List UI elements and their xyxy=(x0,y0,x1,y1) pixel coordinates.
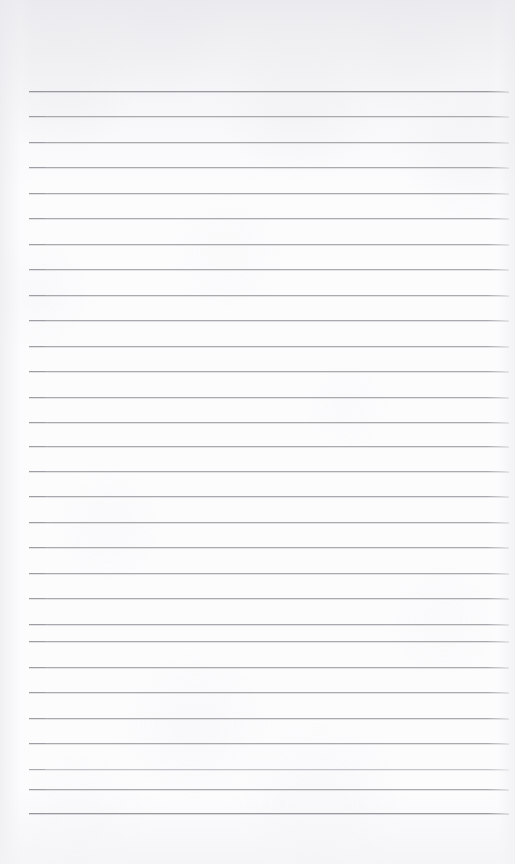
notepad-page xyxy=(0,0,515,864)
ruled-line xyxy=(29,813,509,814)
writing-area[interactable] xyxy=(29,91,509,813)
